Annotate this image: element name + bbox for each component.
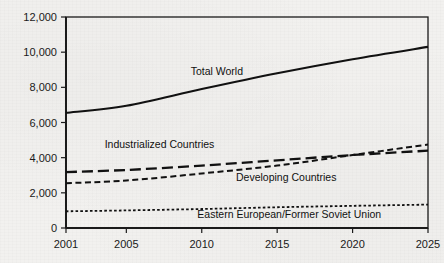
plot-border: [66, 17, 428, 228]
x-tick-label: 2020: [340, 238, 364, 250]
x-tick-label: 2010: [190, 238, 214, 250]
series-label: Total World: [191, 65, 243, 77]
series-lines: [66, 47, 428, 211]
plot-frame: [66, 17, 428, 228]
x-axis-tick-labels: 200120052010201520202025: [54, 238, 440, 250]
x-tick-label: 2015: [265, 238, 289, 250]
y-tick-label: 2,000: [29, 187, 57, 199]
y-axis-tick-labels: 02,0004,0006,0008,00010,00012,000: [23, 11, 57, 234]
y-tick-label: 8,000: [29, 81, 57, 93]
series-line: [66, 47, 428, 113]
x-tick-label: 2025: [416, 238, 440, 250]
chart-canvas: 02,0004,0006,0008,00010,00012,000 200120…: [0, 0, 444, 263]
series-label: Industrialized Countries: [105, 138, 215, 150]
y-tick-label: 0: [51, 222, 57, 234]
x-tick-label: 2005: [114, 238, 138, 250]
series-annotations: Total WorldIndustrialized CountriesDevel…: [105, 65, 382, 220]
series-label: Eastern European/Former Soviet Union: [197, 208, 381, 220]
line-chart: 02,0004,0006,0008,00010,00012,000 200120…: [0, 0, 444, 263]
y-tick-label: 12,000: [23, 11, 57, 23]
y-tick-label: 6,000: [29, 117, 57, 129]
y-tick-label: 4,000: [29, 152, 57, 164]
series-label: Developing Countries: [236, 171, 336, 183]
x-tick-label: 2001: [54, 238, 78, 250]
y-tick-label: 10,000: [23, 46, 57, 58]
